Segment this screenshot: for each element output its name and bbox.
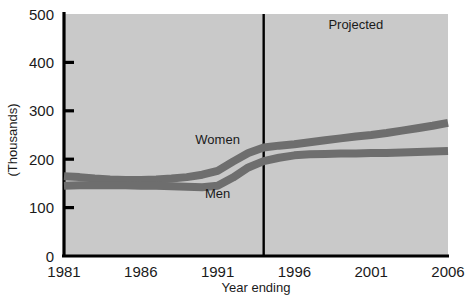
y-tick-label-300: 300 [29,102,54,119]
y-tick-label-200: 200 [29,151,54,168]
x-tick-label-2006: 2006 [431,263,464,280]
y-tick-label-400: 400 [29,54,54,71]
x-tick-label-1991: 1991 [201,263,234,280]
y-tick-label-500: 500 [29,6,54,23]
projected-label: Projected [328,17,383,32]
y-axis-title: (Thousands) [5,104,20,177]
x-tick-label-1986: 1986 [124,263,157,280]
y-tick-label-100: 100 [29,199,54,216]
annotation-labels: Projected [328,17,383,32]
y-tick-label-0: 0 [46,248,54,265]
x-tick-label-2001: 2001 [355,263,388,280]
chart-figure: 0100200300400500 19811986199119962001200… [0,0,473,303]
x-tick-label-1996: 1996 [278,263,311,280]
x-axis-title: Year ending [222,280,291,295]
series-label-men: Men [205,186,230,201]
x-tick-label-1981: 1981 [47,263,80,280]
series-label-women: Women [195,132,240,147]
